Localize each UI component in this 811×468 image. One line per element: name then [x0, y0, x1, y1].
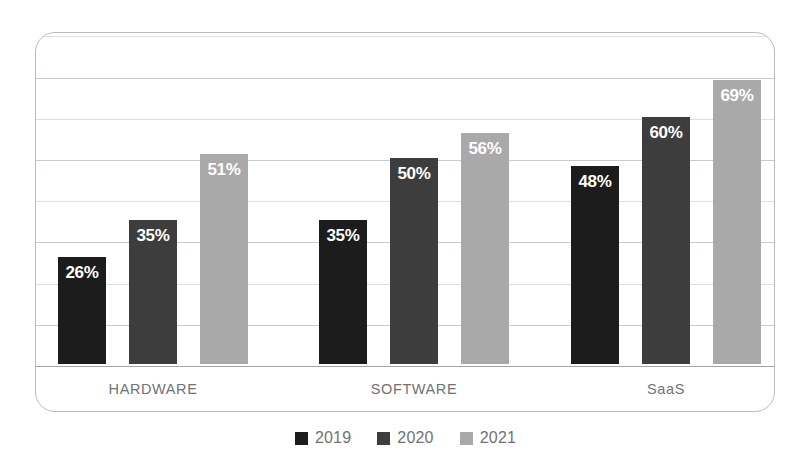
bar-value-label: 35%: [319, 227, 367, 244]
legend-label: 2021: [480, 430, 516, 446]
bar-value-label: 56%: [461, 140, 509, 157]
legend-label: 2020: [397, 430, 433, 446]
legend-swatch-icon: [295, 432, 308, 445]
bar-value-label: 60%: [642, 124, 690, 141]
bar[interactable]: 35%: [319, 220, 367, 364]
bar[interactable]: 35%: [129, 220, 177, 364]
legend-swatch-icon: [460, 432, 473, 445]
bar-value-label: 51%: [200, 161, 248, 178]
category-label: SaaS: [571, 381, 761, 397]
bar[interactable]: 26%: [58, 257, 106, 364]
bar[interactable]: 51%: [200, 154, 248, 364]
bar[interactable]: 48%: [571, 166, 619, 364]
legend-swatch-icon: [377, 432, 390, 445]
grouped-bar-chart: 26%35%51%HARDWARE35%50%56%SOFTWARE48%60%…: [0, 0, 811, 468]
legend-item[interactable]: 2021: [460, 430, 516, 446]
bar-value-label: 35%: [129, 227, 177, 244]
bar[interactable]: 50%: [390, 158, 438, 364]
legend-item[interactable]: 2019: [295, 430, 351, 446]
category-label: HARDWARE: [58, 381, 248, 397]
category-label: SOFTWARE: [319, 381, 509, 397]
chart-frame: 26%35%51%HARDWARE35%50%56%SOFTWARE48%60%…: [35, 32, 775, 412]
bar[interactable]: 69%: [713, 80, 761, 364]
plot-area: 26%35%51%HARDWARE35%50%56%SOFTWARE48%60%…: [36, 33, 774, 411]
bar-value-label: 50%: [390, 165, 438, 182]
chart-legend: 201920202021: [0, 430, 811, 446]
legend-item[interactable]: 2020: [377, 430, 433, 446]
bar[interactable]: 56%: [461, 133, 509, 364]
bar-value-label: 26%: [58, 264, 106, 281]
legend-label: 2019: [315, 430, 351, 446]
bar-value-label: 48%: [571, 173, 619, 190]
bar-value-label: 69%: [713, 87, 761, 104]
bar[interactable]: 60%: [642, 117, 690, 364]
